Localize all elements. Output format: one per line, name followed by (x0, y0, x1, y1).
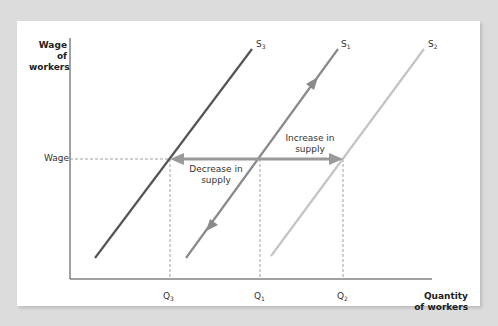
wage-tick-label: Wage (44, 153, 69, 164)
s2-label: S2 (428, 39, 438, 52)
x-axis-label-line1: Quantity (408, 291, 468, 302)
increase-line1: Increase in (280, 133, 340, 144)
decrease-annotation: Decrease in supply (186, 164, 246, 186)
s1-up-arrow-icon (306, 77, 318, 90)
supply-diagram (0, 0, 498, 326)
s2-sub: 2 (434, 43, 438, 50)
x-axis-label-line2: of workers (408, 302, 468, 313)
s3-curve (95, 49, 252, 258)
s3-sub: 3 (262, 43, 266, 50)
y-axis-label-line2: workers (29, 62, 67, 73)
q1-tick-label: Q1 (254, 291, 265, 304)
q3-tick-label: Q3 (163, 291, 174, 304)
q1-sub: 1 (261, 295, 265, 302)
s3-label: S3 (256, 39, 266, 52)
q2-sub: 2 (344, 295, 348, 302)
decrease-line2: supply (186, 175, 246, 186)
s1-down-arrow-icon (206, 219, 218, 231)
s1-sub: 1 (347, 43, 351, 50)
y-axis-label: Wage of workers (29, 40, 67, 73)
q3-sub: 3 (170, 295, 174, 302)
q2-tick-label: Q2 (337, 291, 348, 304)
decrease-line1: Decrease in (186, 164, 246, 175)
y-axis-label-line1: Wage of (29, 40, 67, 62)
increase-line2: supply (280, 144, 340, 155)
s1-label: S1 (341, 39, 351, 52)
x-axis-label: Quantity of workers (408, 291, 468, 313)
increase-annotation: Increase in supply (280, 133, 340, 155)
